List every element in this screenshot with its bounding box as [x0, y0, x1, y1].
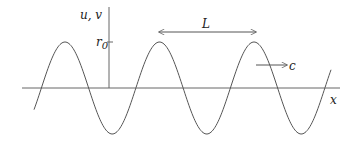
amplitude-label: r0 [96, 35, 109, 51]
x-axis-label: x [330, 93, 337, 107]
speed-label: c [289, 59, 296, 73]
vertical-axis-label: u, v [80, 8, 102, 22]
wavelength-label: L [201, 17, 210, 31]
wave-diagram: u, v r0 L c x [0, 0, 356, 144]
